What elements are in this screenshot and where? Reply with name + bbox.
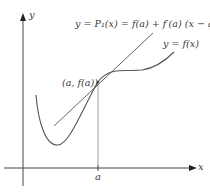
tangent-equation-label: y = P₁(x) = f(a) + f′(a) (x − a) [75,19,210,29]
y-axis-arrow-icon [20,13,26,21]
diagram: y x a y = P₁(x) = f(a) + f′(a) (x − a) y… [0,0,210,193]
curve-f [36,52,174,145]
x-tick-label-a: a [95,172,101,182]
y-axis-label: y [29,10,35,20]
x-axis-arrow-icon [189,165,197,171]
point-label: (a, f(a)) [62,78,98,88]
x-axis-label: x [198,162,204,172]
y-axis [20,13,26,186]
curve-label: y = f(x) [163,39,199,49]
